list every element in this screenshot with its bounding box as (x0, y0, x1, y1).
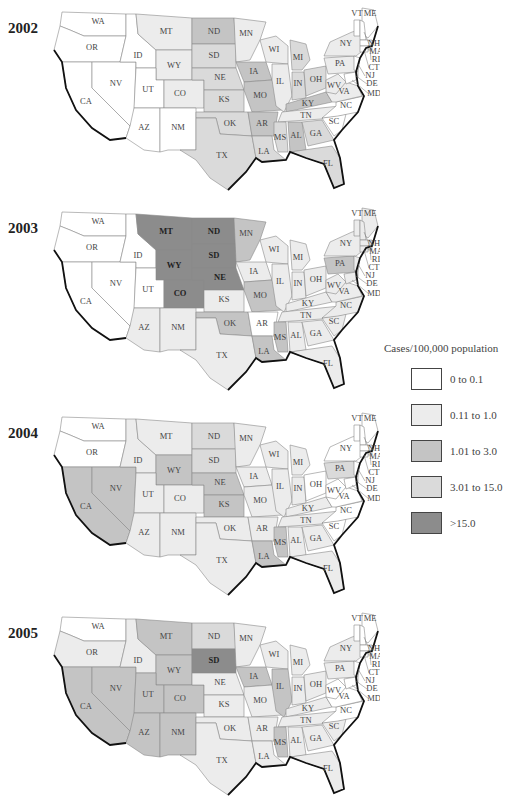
state-label: ND (208, 26, 220, 36)
state-md (344, 677, 356, 689)
state-label: NE (214, 272, 226, 282)
state-label: GA (310, 533, 323, 543)
state-label: AL (290, 735, 301, 745)
state-label: MN (239, 433, 253, 443)
state-label: CO (174, 493, 186, 503)
state-label: WI (269, 449, 280, 459)
state-label: VT (351, 208, 363, 218)
legend-swatch (411, 368, 442, 390)
state-label: CA (80, 96, 93, 106)
legend-swatch (411, 440, 442, 462)
state-label: OH (310, 74, 322, 84)
state-label: WA (91, 16, 105, 26)
state-label: ID (134, 50, 143, 60)
state-fl (290, 551, 344, 593)
legend-label: 0 to 0.1 (450, 373, 483, 385)
state-label: AR (256, 723, 268, 733)
state-label: UT (142, 284, 154, 294)
legend-label: 1.01 to 3.0 (450, 445, 497, 457)
state-label: SD (209, 250, 220, 260)
state-label: ID (134, 655, 143, 665)
state-label: ME (364, 613, 377, 623)
state-label: OH (310, 679, 322, 689)
state-label: CO (174, 693, 186, 703)
state-label: IA (250, 471, 260, 481)
state-label: OR (86, 42, 98, 52)
state-label: KY (302, 98, 314, 108)
state-label: MT (159, 226, 173, 236)
state-label: WY (167, 60, 181, 70)
state-label: DE (366, 683, 377, 693)
state-label: KS (219, 699, 230, 709)
state-label: TX (216, 150, 227, 160)
legend-swatch (411, 404, 442, 426)
state-label: FL (323, 358, 333, 368)
state-label: MD (367, 88, 380, 98)
us-map: WAORCANVIDMTWYUTCOAZNMNDSDNEKSOKTXMNIAMO… (40, 200, 380, 400)
state-label: AZ (138, 322, 149, 332)
state-label: NV (110, 278, 123, 288)
legend-swatch (411, 476, 442, 498)
state-label: GA (310, 733, 323, 743)
state-label: NC (340, 300, 352, 310)
legend-item: >15.0 (411, 512, 525, 534)
state-label: MD (367, 493, 380, 503)
state-label: NE (214, 72, 225, 82)
state-label: WV (327, 485, 342, 495)
leader-line (358, 64, 365, 76)
state-md (344, 477, 356, 489)
state-label: CO (174, 288, 187, 298)
state-label: ND (208, 226, 220, 236)
state-label: AZ (138, 727, 149, 737)
state-label: IN (294, 278, 303, 288)
state-label: WY (167, 260, 182, 270)
state-label: MO (253, 290, 267, 300)
state-label: NY (340, 443, 352, 453)
state-label: NV (110, 683, 123, 693)
state-label: DE (366, 278, 377, 288)
state-label: IN (294, 483, 303, 493)
state-label: FL (323, 563, 333, 573)
state-label: WV (327, 80, 342, 90)
state-label: NV (110, 78, 123, 88)
state-label: SD (209, 455, 220, 465)
state-label: UT (142, 84, 154, 94)
state-label: MS (274, 737, 287, 747)
state-label: WI (269, 44, 280, 54)
state-label: TN (300, 110, 311, 120)
state-label: KS (219, 499, 230, 509)
state-label: NM (171, 322, 185, 332)
state-label: NE (214, 477, 225, 487)
state-label: WA (91, 621, 105, 631)
state-label: NM (171, 527, 185, 537)
us-map: WAORCANVIDMTWYUTCOAZNMNDSDNEKSOKTXMNIAMO… (40, 405, 380, 605)
legend-title: Cases/100,000 population (384, 342, 525, 354)
state-label: LA (258, 551, 270, 561)
us-map: WAORCANVIDMTWYUTCOAZNMNDSDNEKSOKTXMNIAMO… (40, 605, 380, 805)
state-label: LA (258, 146, 270, 156)
state-label: MD (367, 288, 380, 298)
map-panel-2002: 2002 WAORCANVIDMTWYUTCOAZNMNDSDNEKSOKTXM… (0, 0, 400, 200)
state-vt (354, 625, 360, 641)
state-label: WV (327, 685, 342, 695)
state-label: PA (335, 463, 346, 473)
state-label: IN (294, 683, 303, 693)
state-label: MI (293, 657, 304, 667)
state-label: MS (274, 132, 287, 142)
state-label: WY (167, 665, 181, 675)
state-label: WV (327, 280, 342, 290)
state-label: AR (256, 523, 268, 533)
state-label: KS (219, 94, 230, 104)
state-label: NY (340, 38, 352, 48)
state-label: UT (142, 489, 154, 499)
state-label: OR (86, 447, 98, 457)
state-label: NM (171, 727, 185, 737)
state-label: SC (329, 521, 340, 531)
map-panel-2005: 2005 WAORCANVIDMTWYUTCOAZNMNDSDNEKSOKTXM… (0, 605, 400, 805)
state-fl (290, 146, 344, 188)
state-label: OK (224, 523, 237, 533)
state-label: NC (340, 100, 352, 110)
state-label: CO (174, 88, 186, 98)
state-label: GA (310, 328, 323, 338)
state-label: OK (224, 723, 237, 733)
